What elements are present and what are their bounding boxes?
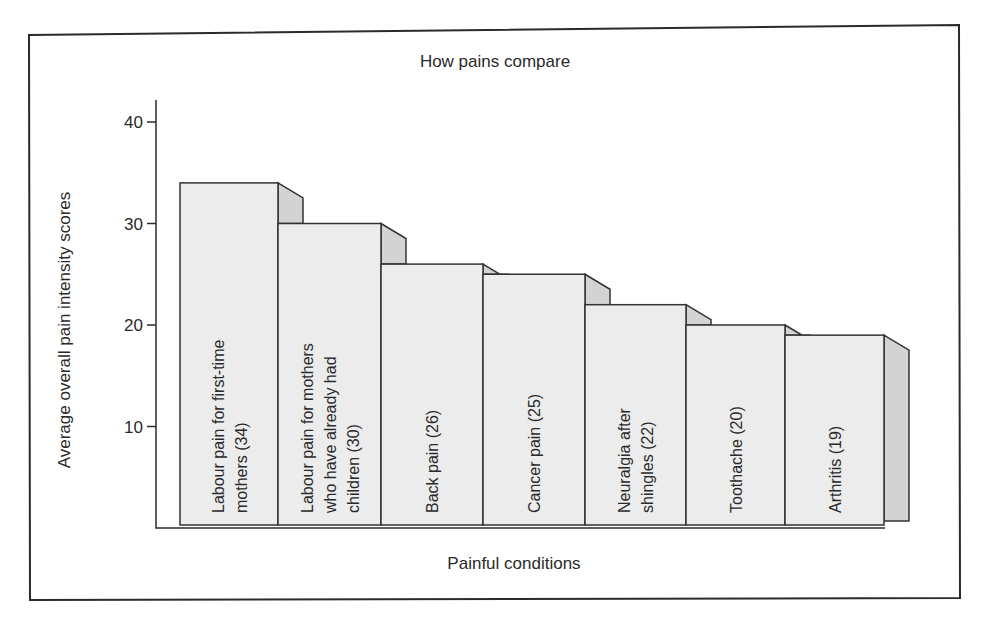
bar-label: Back pain (26) [424, 410, 441, 513]
bar-label: Neuralgia after [616, 407, 633, 513]
bar: Arthritis (19) [785, 335, 909, 525]
bar-side-face [381, 224, 406, 265]
x-axis-title: Painful conditions [447, 554, 580, 573]
y-tick-label: 30 [124, 215, 143, 234]
bar-label: Cancer pain (25) [526, 394, 543, 513]
bar-label: Toothache (20) [728, 406, 745, 513]
bar-label: Labour pain for first-time [210, 339, 227, 513]
bars-group: Labour pain for first-timemothers (34)La… [180, 183, 909, 525]
bar-label: who have already had [322, 356, 339, 514]
y-axis-title: Average overall pain intensity scores [55, 192, 74, 469]
y-tick-label: 20 [124, 316, 143, 335]
bar-side-face [686, 305, 711, 325]
bar-label: children (30) [345, 424, 362, 513]
bar-front-face [180, 183, 278, 525]
y-tick-label: 40 [124, 113, 143, 132]
chart-canvas: How pains compare Average overall pain i… [0, 0, 991, 628]
bar-side-face [585, 274, 610, 304]
y-tick-label: 10 [124, 418, 143, 437]
bar-label: mothers (34) [233, 422, 250, 513]
bar-side-face [278, 183, 303, 224]
bar-label: shingles (22) [639, 421, 656, 513]
bar-side-face [884, 335, 909, 521]
chart-title: How pains compare [420, 52, 570, 71]
bar-label: Arthritis (19) [827, 426, 844, 513]
bar-front-face [585, 305, 686, 525]
bar-label: Labour pain for mothers [299, 343, 316, 513]
